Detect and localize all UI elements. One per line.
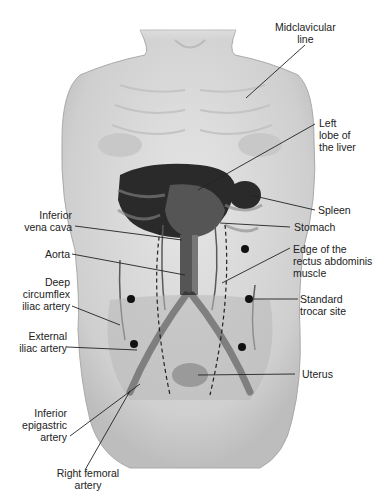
label-midclavicular-line: Midclavicularline [275,21,336,45]
label-rectus-edge: Edge of therectus abdominismuscle [293,243,372,279]
label-left-lobe-liver: Leftlobe ofthe liver [319,117,356,153]
label-stomach: Stomach [294,221,335,233]
label-standard-trocar-site: Standardtrocar site [300,293,346,317]
label-deep-circumflex-iliac-artery: Deepcircumflexiliac artery [10,276,70,312]
spleen-shape [229,181,261,209]
label-aorta: Aorta [30,248,70,260]
label-inferior-vena-cava: Inferiorvena cava [22,209,72,233]
label-spleen: Spleen [318,204,351,216]
label-external-iliac-artery: Externaliliac artery [5,330,67,354]
label-uterus: Uterus [302,368,333,380]
anatomy-diagram: Midclavicularline Leftlobe ofthe liver S… [0,0,387,504]
label-inferior-epigastric-artery: Inferiorepigastricartery [10,407,67,443]
label-right-femoral-artery: Right femoralartery [48,467,128,491]
